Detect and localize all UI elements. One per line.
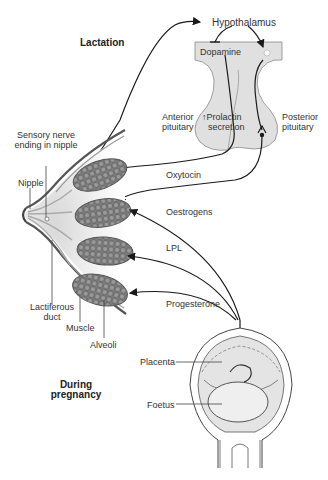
lactiferous-line2: duct <box>26 312 78 322</box>
lpl-arrow <box>128 256 238 320</box>
sensory-line1: Sensory nerve <box>6 130 86 140</box>
pituitary-gland <box>195 42 282 150</box>
anterior-line1: Anterior <box>162 112 194 122</box>
anterior-pituitary-label: Anterior pituitary <box>162 112 194 132</box>
lactiferous-duct-label: Lactiferous duct <box>26 302 78 322</box>
prolactin-line1: ↑Prolactin <box>202 112 245 122</box>
lpl-label: LPL <box>166 243 182 253</box>
oxytocin-label: Oxytocin <box>166 170 201 180</box>
posterior-line1: Posterior <box>282 112 318 122</box>
muscle-label: Muscle <box>66 323 95 333</box>
uterus-illustration <box>176 328 292 468</box>
progesterone-label: Progesterone <box>166 299 220 309</box>
lactiferous-line1: Lactiferous <box>26 302 78 312</box>
neuron-burst-icon <box>264 50 270 56</box>
during-pregnancy-heading: During pregnancy <box>46 380 106 400</box>
hypothalamus-label: Hypothalamus <box>212 18 276 28</box>
dopamine-label: Dopamine <box>200 47 241 57</box>
prolactin-line2: secretion <box>202 122 245 132</box>
placenta-label: Placenta <box>140 357 175 367</box>
sensory-nerve-label: Sensory nerve ending in nipple <box>6 130 86 150</box>
dopamine-inhibition-line <box>215 26 232 42</box>
nipple-label: Nipple <box>18 178 44 188</box>
posterior-pituitary-label: Posterior pituitary <box>282 112 318 132</box>
oestrogens-label: Oestrogens <box>166 207 213 217</box>
during-pregnancy-line2: pregnancy <box>46 390 106 400</box>
foetus <box>208 382 268 422</box>
alveoli-label: Alveoli <box>90 340 117 350</box>
prolactin-secretion-label: ↑Prolactin secretion <box>202 112 245 132</box>
lactation-heading: Lactation <box>80 38 124 48</box>
foetus-label: Foetus <box>147 400 175 410</box>
posterior-line2: pituitary <box>282 122 318 132</box>
sensory-line2: ending in nipple <box>6 140 86 150</box>
breast-illustration <box>23 130 134 314</box>
anterior-line2: pituitary <box>162 122 194 132</box>
